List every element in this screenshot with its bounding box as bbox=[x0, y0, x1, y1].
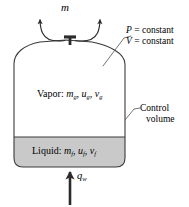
thermodynamics-control-volume-figure: ˙m P = constant V = constant Vapor: mg, … bbox=[0, 0, 189, 207]
vapor-internal-energy-symbol: u bbox=[82, 88, 87, 99]
liquid-specific-volume-subscript: f bbox=[94, 150, 96, 157]
liquid-phase-title: Liquid: bbox=[32, 145, 61, 156]
mass-flow-arrow-right bbox=[75, 20, 100, 41]
pressure-relation: = constant bbox=[134, 25, 173, 35]
valve-stem bbox=[69, 38, 72, 45]
heat-input-label: qw bbox=[77, 170, 87, 182]
vapor-phase-title: Vapor: bbox=[37, 88, 64, 99]
valve-cap bbox=[64, 35, 76, 38]
liquid-mass-subscript: f bbox=[71, 150, 73, 157]
mdot-symbol: ˙m bbox=[61, 1, 69, 13]
vapor-sep-2: , bbox=[90, 88, 93, 99]
vapor-internal-energy-subscript: g bbox=[87, 93, 90, 100]
control-volume-leader-line bbox=[125, 108, 140, 120]
liquid-internal-energy-subscript: f bbox=[83, 150, 85, 157]
liquid-sep-2: , bbox=[85, 145, 88, 156]
liquid-phase-annotation: Liquid: mf, uf, vf bbox=[32, 145, 96, 156]
vapor-mass-subscript: g bbox=[73, 93, 76, 100]
vapor-specific-volume-subscript: g bbox=[99, 93, 102, 100]
constant-row-volume: V = constant bbox=[126, 36, 174, 47]
vapor-phase-annotation: Vapor: mg, ug, vg bbox=[37, 88, 102, 99]
overdot-accent: ˙ bbox=[63, 0, 66, 8]
control-volume-annotation: Control volume bbox=[140, 103, 175, 124]
volume-relation: = constant bbox=[134, 36, 173, 46]
pressure-symbol: P bbox=[126, 25, 132, 35]
constants-annotation: P = constant V = constant bbox=[126, 25, 174, 46]
volume-symbol: V bbox=[126, 36, 132, 46]
mass-flow-arrow-left bbox=[40, 20, 65, 41]
liquid-sep-1: , bbox=[73, 145, 76, 156]
constant-row-pressure: P = constant bbox=[126, 25, 174, 36]
control-volume-line-2: volume bbox=[140, 114, 175, 125]
mass-flow-rate-label: ˙m bbox=[61, 1, 69, 13]
control-volume-line-1: Control bbox=[140, 103, 175, 114]
heat-flux-subscript: w bbox=[82, 175, 86, 182]
